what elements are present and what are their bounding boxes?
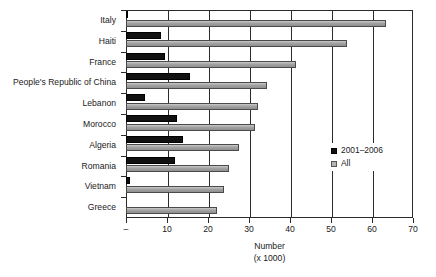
bar-2001-2006 xyxy=(126,32,161,39)
x-axis-tick-label: 30 xyxy=(244,224,254,234)
x-axis-tick-label: 20 xyxy=(203,224,213,234)
bar-2001-2006 xyxy=(126,11,128,18)
y-axis-label: Greece xyxy=(88,197,116,218)
x-axis-tick xyxy=(331,218,332,223)
y-axis-tick xyxy=(121,156,126,157)
bar-all xyxy=(126,186,224,193)
bar-chart: ItalyHaitiFrancePeople's Republic of Chi… xyxy=(0,0,436,277)
bar-2001-2006 xyxy=(126,115,177,122)
x-axis-tick-label: – xyxy=(124,224,129,234)
x-axis-tick xyxy=(413,218,414,223)
y-axis-tick xyxy=(121,72,126,73)
bar-all xyxy=(126,82,267,89)
x-axis-title-line2: (x 1000) xyxy=(126,252,413,264)
bar-2001-2006 xyxy=(126,177,130,184)
legend-item-all[interactable]: All xyxy=(331,157,383,170)
x-axis-tick xyxy=(372,218,373,223)
x-axis-tick-label: 70 xyxy=(408,224,418,234)
x-axis-tick-label: 40 xyxy=(285,224,295,234)
bar-group xyxy=(126,72,413,93)
y-axis-tick xyxy=(121,31,126,32)
bar-2001-2006 xyxy=(126,136,183,143)
y-axis-tick xyxy=(121,176,126,177)
y-axis-label: People's Republic of China xyxy=(13,72,116,93)
bar-group xyxy=(126,10,413,31)
bar-2001-2006 xyxy=(126,73,190,80)
bar-group xyxy=(126,93,413,114)
y-axis-label: Haiti xyxy=(99,31,116,52)
bars-container xyxy=(126,10,413,218)
y-axis-label: Algeria xyxy=(89,135,116,156)
y-axis-tick xyxy=(121,135,126,136)
x-axis-tick-labels: –10203040506070 xyxy=(0,224,436,238)
y-axis-tick xyxy=(121,52,126,53)
y-axis-label: France xyxy=(89,52,116,73)
black-square-icon xyxy=(331,148,337,154)
y-axis-label: Vietnam xyxy=(85,176,116,197)
y-axis-tick xyxy=(121,10,126,11)
legend-item-recent[interactable]: 2001–2006 xyxy=(331,144,383,157)
y-axis-tick xyxy=(121,114,126,115)
y-axis-tick xyxy=(121,197,126,198)
x-axis-title: Number (x 1000) xyxy=(126,240,413,264)
bar-all xyxy=(126,144,239,151)
y-axis-label: Morocco xyxy=(83,114,116,135)
y-axis-label: Italy xyxy=(100,10,116,31)
bar-group xyxy=(126,197,413,218)
x-axis-tick xyxy=(290,218,291,223)
bar-all xyxy=(126,207,217,214)
bar-all xyxy=(126,103,258,110)
y-axis-labels: ItalyHaitiFrancePeople's Republic of Chi… xyxy=(0,10,124,218)
x-axis-tick xyxy=(208,218,209,223)
bar-group xyxy=(126,52,413,73)
y-axis-label: Romania xyxy=(82,156,116,177)
x-axis-tick-label: 10 xyxy=(162,224,172,234)
bar-all xyxy=(126,61,296,68)
bar-all xyxy=(126,165,229,172)
legend: 2001–2006 All xyxy=(329,143,385,171)
y-axis-label: Lebanon xyxy=(83,93,116,114)
bar-all xyxy=(126,124,255,131)
bar-all xyxy=(126,20,386,27)
bar-all xyxy=(126,40,347,47)
x-axis-tick xyxy=(126,218,127,223)
x-axis-tick-label: 50 xyxy=(326,224,336,234)
legend-label-recent: 2001–2006 xyxy=(341,144,383,157)
bar-group xyxy=(126,31,413,52)
bar-group xyxy=(126,176,413,197)
bar-group xyxy=(126,114,413,135)
x-axis-tick xyxy=(249,218,250,223)
bar-2001-2006 xyxy=(126,53,165,60)
bar-2001-2006 xyxy=(126,157,175,164)
gray-square-icon xyxy=(331,161,337,167)
x-axis-tick xyxy=(167,218,168,223)
bar-2001-2006 xyxy=(126,94,145,101)
x-axis-title-line1: Number xyxy=(126,240,413,252)
y-axis-tick xyxy=(121,93,126,94)
x-axis-tick-label: 60 xyxy=(367,224,377,234)
legend-label-all: All xyxy=(341,157,350,170)
